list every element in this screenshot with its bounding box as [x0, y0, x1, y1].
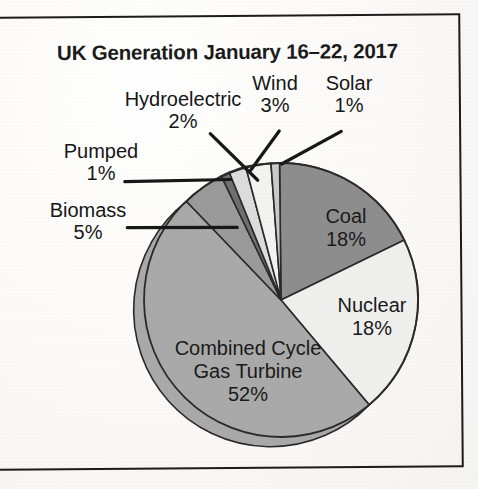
- slice-label-coal: Coal 18%: [300, 205, 392, 251]
- slice-label-hydroelectric-name: Hydroelectric: [125, 88, 242, 110]
- slice-value-wind: 3%: [243, 94, 307, 116]
- slice-value-pumped: 1%: [48, 162, 154, 184]
- pie-chart-svg: [0, 0, 478, 489]
- figure-page: UK Generation January 16–22, 2017 Hydroe…: [0, 0, 478, 489]
- slice-value-nuclear: 18%: [352, 317, 392, 339]
- slice-value-coal: 18%: [326, 228, 366, 250]
- slice-label-pumped: Pumped 1%: [48, 140, 154, 185]
- slice-label-coal-name: Coal: [325, 205, 366, 227]
- slice-label-nuclear: Nuclear 18%: [320, 294, 424, 340]
- slice-label-solar-name: Solar: [326, 72, 373, 94]
- slice-label-hydroelectric: Hydroelectric 2%: [108, 88, 258, 133]
- slice-label-ccgt: Combined Cycle Gas Turbine 52%: [148, 337, 348, 407]
- slice-label-wind: Wind 3%: [243, 72, 307, 117]
- slice-value-ccgt: 52%: [228, 383, 268, 405]
- slice-label-ccgt-line1: Combined Cycle: [175, 337, 322, 359]
- slice-label-ccgt-line2: Gas Turbine: [194, 360, 303, 382]
- slice-label-nuclear-name: Nuclear: [338, 294, 407, 316]
- slice-label-wind-name: Wind: [252, 72, 298, 94]
- slice-label-solar: Solar 1%: [317, 72, 381, 117]
- slice-value-solar: 1%: [317, 94, 381, 116]
- chart-title: UK Generation January 16–22, 2017: [0, 39, 455, 66]
- slice-value-hydroelectric: 2%: [108, 110, 258, 132]
- slice-label-pumped-name: Pumped: [64, 140, 139, 162]
- slice-value-biomass: 5%: [28, 221, 148, 243]
- slice-label-biomass-name: Biomass: [50, 199, 127, 221]
- leader-line-solar: [281, 131, 341, 164]
- slice-label-biomass: Biomass 5%: [28, 199, 148, 244]
